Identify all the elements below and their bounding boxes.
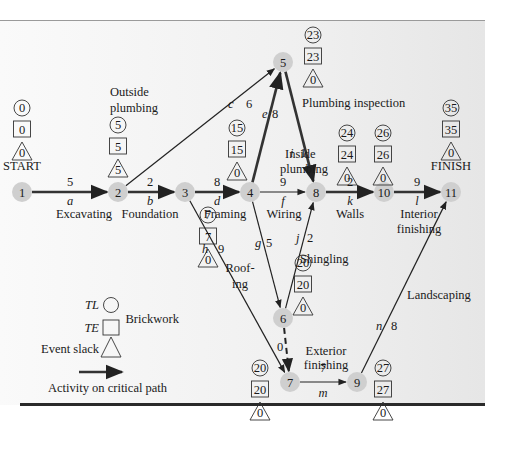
te-value: 20 bbox=[297, 278, 310, 292]
label-exterior-finishing-2: finishing bbox=[304, 358, 349, 372]
duration-d: 8 bbox=[214, 175, 220, 189]
event-number: 6 bbox=[280, 312, 286, 326]
tl-value: 15 bbox=[231, 121, 244, 135]
start-label: START bbox=[3, 159, 41, 173]
tl-value: 27 bbox=[377, 361, 390, 375]
tl-value: 5 bbox=[115, 118, 121, 132]
te-value: 15 bbox=[231, 143, 244, 157]
te-value: 5 bbox=[115, 140, 121, 154]
event-number: 7 bbox=[287, 376, 293, 390]
slack-value: 0 bbox=[448, 146, 454, 160]
label-inside-plumbing-2: plumbing bbox=[280, 162, 329, 176]
slack-value: 0 bbox=[310, 73, 316, 87]
label-roofing-2: ing bbox=[232, 277, 249, 291]
tl-value: 0 bbox=[19, 101, 25, 115]
activity-edges bbox=[32, 69, 446, 382]
tl-value: 35 bbox=[445, 101, 458, 115]
label-shingling: Shingling bbox=[300, 252, 349, 266]
tl-value: 24 bbox=[341, 126, 354, 140]
duration-f: 9 bbox=[280, 175, 286, 189]
te-value: 23 bbox=[307, 50, 320, 64]
label-interior-finishing-2: finishing bbox=[397, 222, 442, 236]
event-number: 3 bbox=[182, 186, 188, 200]
te-value: 24 bbox=[341, 148, 354, 162]
letter-g: g bbox=[255, 236, 261, 250]
label-interior-finishing: Interior bbox=[400, 207, 438, 221]
te-value: 35 bbox=[445, 123, 458, 137]
letter-h: h bbox=[202, 242, 208, 256]
event-number: 2 bbox=[115, 186, 121, 200]
event-number: 4 bbox=[247, 186, 254, 200]
tl-value: 26 bbox=[377, 126, 390, 140]
label-outside-plumbing: Outside bbox=[110, 85, 149, 99]
label-plumbing-inspection: Plumbing inspection bbox=[302, 96, 406, 110]
te-value: 20 bbox=[254, 383, 267, 397]
letter-n: n bbox=[376, 319, 382, 333]
event-number: 9 bbox=[354, 376, 360, 390]
duration-l: 9 bbox=[414, 175, 420, 189]
slack-value: 0 bbox=[380, 406, 386, 420]
slack-value: 0 bbox=[257, 406, 263, 420]
label-framing: Framing bbox=[204, 207, 247, 221]
legend-square-icon bbox=[103, 320, 119, 335]
label-brickwork: Brickwork bbox=[126, 312, 180, 326]
legend-critical-label: Activity on critical path bbox=[48, 381, 168, 395]
te-value: 26 bbox=[377, 148, 390, 162]
legend-slack-label: Event slack bbox=[41, 342, 100, 356]
duration-a: 5 bbox=[67, 175, 73, 189]
legend-tl-label: TL bbox=[85, 298, 99, 312]
label-walls: Walls bbox=[336, 207, 364, 221]
duration-h: 9 bbox=[218, 242, 224, 256]
legend-te-label: TE bbox=[84, 321, 99, 335]
event-number: 1 bbox=[19, 186, 25, 200]
te-value: 0 bbox=[19, 123, 25, 137]
label-exterior-finishing: Exterior bbox=[306, 344, 348, 358]
te-value: 27 bbox=[377, 383, 390, 397]
label-outside-plumbing-2: plumbing bbox=[110, 101, 159, 115]
tl-value: 20 bbox=[254, 361, 267, 375]
slack-value: 5 bbox=[115, 163, 121, 177]
slack-value: 0 bbox=[234, 166, 240, 180]
slack-value: 0 bbox=[19, 146, 25, 160]
letter-j: j bbox=[294, 231, 300, 245]
event-number: 8 bbox=[313, 186, 319, 200]
letter-a: a bbox=[67, 194, 73, 208]
slack-value: 0 bbox=[380, 171, 386, 185]
letter-c: c bbox=[228, 97, 234, 111]
letter-f: f bbox=[281, 194, 286, 208]
event-number: 5 bbox=[280, 56, 286, 70]
duration-c: 6 bbox=[246, 97, 252, 111]
finish-label: FINISH bbox=[431, 159, 471, 173]
label-landscaping: Landscaping bbox=[407, 288, 472, 302]
tl-value: 23 bbox=[307, 28, 320, 42]
duration-b: 2 bbox=[147, 175, 153, 189]
label-excavating: Excavating bbox=[56, 207, 113, 221]
legend-circle-icon bbox=[104, 298, 119, 313]
event-number: 11 bbox=[445, 186, 457, 200]
activity-e bbox=[252, 73, 280, 183]
duration-g: 5 bbox=[266, 236, 272, 250]
activity-dummy bbox=[284, 328, 289, 371]
label-roofing: Roof- bbox=[225, 261, 254, 275]
duration-dummy: 0 bbox=[277, 340, 283, 354]
event-nodes: 1000255537704151505232306202007202008242… bbox=[12, 27, 461, 420]
duration-e: 8 bbox=[272, 107, 278, 121]
slack-value: 0 bbox=[300, 301, 306, 315]
label-foundation: Foundation bbox=[122, 207, 180, 221]
legend-triangle-icon bbox=[101, 337, 121, 357]
pert-network: 1000255537704151505232306202007202008242… bbox=[0, 0, 506, 453]
duration-k: 2 bbox=[347, 175, 353, 189]
letter-e: e bbox=[262, 107, 268, 121]
duration-j: 2 bbox=[307, 231, 313, 245]
letter-l: l bbox=[415, 194, 419, 208]
letter-k: k bbox=[347, 194, 353, 208]
label-wiring: Wiring bbox=[267, 207, 303, 221]
duration-n: 8 bbox=[391, 319, 397, 333]
label-inside-plumbing: Inside bbox=[285, 147, 316, 161]
letter-d: d bbox=[214, 194, 221, 208]
letter-b: b bbox=[147, 194, 153, 208]
letter-m: m bbox=[318, 386, 327, 400]
event-number: 10 bbox=[378, 186, 391, 200]
